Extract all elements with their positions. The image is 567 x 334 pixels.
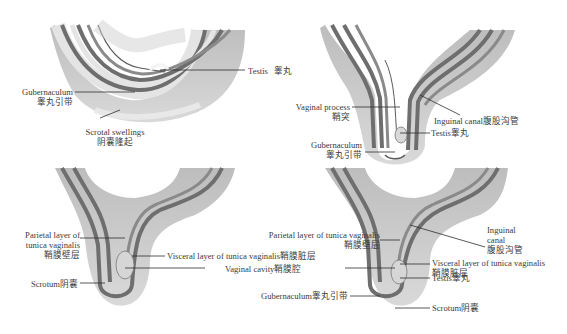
label-vaginal-cavity: Vaginal cavity鞘膜腔 xyxy=(225,264,301,274)
figure-stage: Testis 睾丸 Gubernaculum 睾丸引带 Scrotal swel… xyxy=(0,0,567,334)
label-gubernaculum-b: Gubernaculum 睾丸引带 xyxy=(300,140,362,160)
panel-c-illustration xyxy=(55,168,235,306)
label-scrotal-swellings: Scrotal swellings 阴囊隆起 xyxy=(70,127,160,147)
label-parietal-layer-c: Parietal layer of tunica vaginalis 鞘膜壁层 xyxy=(10,230,80,260)
label-parietal-layer-d: Parietal layer of tunica vaginalis 鞘膜壁层 xyxy=(255,230,380,250)
label-gubernaculum-a: Gubernaculum 睾丸引带 xyxy=(10,87,73,107)
label-gubernaculum-d: Gubernaculum睾丸引带 xyxy=(245,291,348,301)
label-testis-d: Testis睾丸 xyxy=(432,273,470,283)
label-inguinal-canal-b: Inguinal canal腹股沟管 xyxy=(434,116,519,126)
label-vaginal-process: Vaginal process 鞘突 xyxy=(280,102,350,122)
label-scrotum-d: Scrotum阴囊 xyxy=(432,303,479,313)
label-scrotum-c: Scrotum阴囊 xyxy=(10,279,78,289)
label-testis-a: Testis xyxy=(248,66,268,76)
label-testis-a-zh: 睾丸 xyxy=(274,66,292,76)
label-visceral-layer-c: Visceral layer of tunica vaginalis鞘膜脏层 xyxy=(167,251,316,261)
panel-a-illustration xyxy=(50,25,245,122)
label-testis-b: Testis睾丸 xyxy=(431,128,469,138)
anatomy-illustration xyxy=(0,0,567,334)
label-inguinal-canal-d: Inguinal canal 腹股沟管 xyxy=(487,225,523,255)
